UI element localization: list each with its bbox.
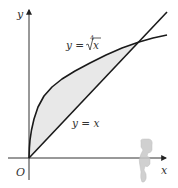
y-axis-label: y — [16, 8, 24, 21]
line-y-equals-x — [29, 12, 167, 158]
x-axis-label: x — [161, 164, 168, 177]
fourth-root-label-radicand: x — [93, 39, 99, 51]
figure-canvas: y x O y = 4 x y = x — [0, 0, 178, 188]
fourth-root-label: y = 4 x — [65, 34, 101, 51]
origin-label: O — [16, 166, 25, 179]
rotation-arrow-icon — [139, 139, 152, 182]
fourth-root-label-prefix: y = — [65, 39, 87, 51]
region-diagram: y x O y = 4 x y = x — [0, 0, 178, 188]
line-label: y = x — [71, 117, 99, 129]
